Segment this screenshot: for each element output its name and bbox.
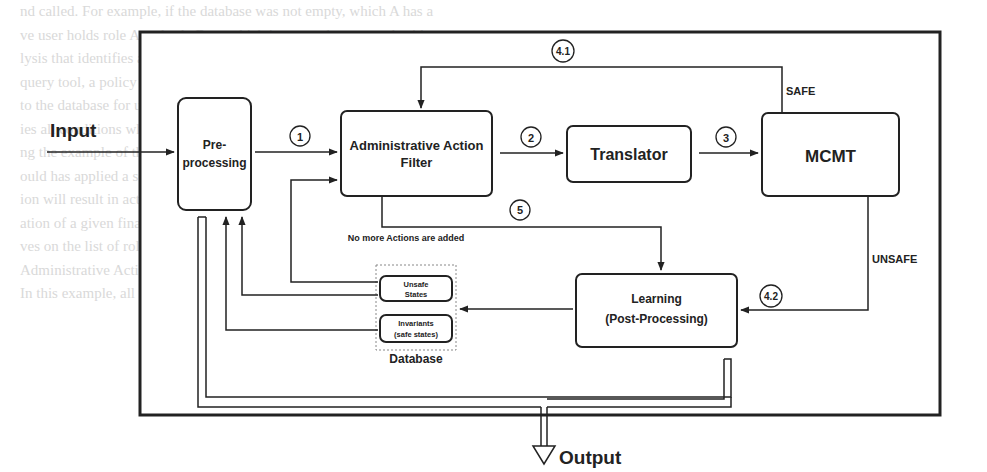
admin-action-filter-node: Administrative Action Filter	[341, 111, 492, 196]
invariants-store: Invariants (safe states)	[380, 315, 452, 342]
step-5-badge: 5	[510, 200, 530, 220]
svg-text:4.2: 4.2	[764, 291, 778, 302]
unsafe-label: UNSAFE	[872, 253, 917, 265]
step-1-badge: 1	[290, 126, 310, 146]
preprocessing-node: Pre- processing	[178, 98, 251, 210]
step-4-1-badge: 4.1	[552, 40, 574, 62]
svg-text:5: 5	[517, 204, 523, 216]
safe-label: SAFE	[786, 85, 815, 97]
mcmt-label: MCMT	[805, 147, 857, 166]
step-3-badge: 3	[716, 127, 736, 147]
svg-text:(safe states): (safe states)	[394, 330, 438, 339]
learning-label-1: Learning	[631, 292, 682, 306]
unsafe-states-store: Unsafe States	[380, 276, 452, 301]
svg-text:3: 3	[723, 132, 729, 144]
admin-filter-label-2: Filter	[401, 155, 433, 170]
preprocessing-label-2: processing	[182, 156, 246, 170]
svg-text:1: 1	[297, 131, 303, 143]
svg-text:2: 2	[528, 132, 534, 144]
learning-node: Learning (Post-Processing)	[576, 274, 737, 347]
translator-label: Translator	[590, 146, 667, 163]
svg-text:States: States	[405, 290, 428, 299]
mcmt-node: MCMT	[762, 113, 899, 196]
preprocessing-label-1: Pre-	[203, 138, 226, 152]
step-4-2-badge: 4.2	[760, 285, 782, 307]
learning-label-2: (Post-Processing)	[605, 312, 708, 326]
no-more-actions-label: No more Actions are added	[348, 233, 465, 243]
svg-text:Invariants: Invariants	[398, 319, 433, 328]
translator-node: Translator	[567, 126, 691, 182]
svg-text:4.1: 4.1	[556, 46, 570, 57]
step-2-badge: 2	[521, 127, 541, 147]
database-label: Database	[389, 352, 443, 366]
output-arrow-head	[533, 446, 555, 464]
architecture-diagram: Input Pre- processing 1 Administrative A…	[0, 0, 987, 472]
diagram-background	[140, 32, 940, 415]
svg-text:Unsafe: Unsafe	[403, 280, 428, 289]
admin-filter-label-1: Administrative Action	[350, 138, 484, 153]
input-label: Input	[50, 120, 97, 141]
output-label: Output	[559, 447, 622, 468]
